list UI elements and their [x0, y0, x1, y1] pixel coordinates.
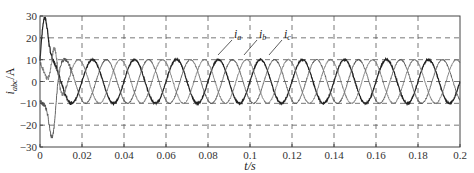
svg-text:0.18: 0.18 — [408, 149, 428, 161]
svg-text:0.02: 0.02 — [72, 149, 91, 161]
svg-text:10: 10 — [26, 54, 38, 66]
svg-text:−10: −10 — [20, 97, 38, 109]
svg-text:30: 30 — [26, 10, 38, 22]
svg-text:20: 20 — [26, 32, 38, 44]
x-axis-label: t/s — [244, 159, 256, 173]
svg-text:0.14: 0.14 — [324, 149, 344, 161]
legend-ic: ic — [284, 27, 291, 42]
svg-text:−20: −20 — [20, 119, 38, 131]
legend-ib: ib — [259, 27, 266, 42]
svg-text:0: 0 — [37, 149, 43, 161]
svg-text:0.2: 0.2 — [453, 149, 467, 161]
legend-ia: ia — [234, 27, 241, 42]
legend-annotations: ia ib ic — [218, 27, 291, 55]
svg-text:−30: −30 — [20, 141, 38, 153]
svg-text:0.16: 0.16 — [366, 149, 386, 161]
chart: 00.020.040.060.080.10.120.140.160.180.2 … — [0, 0, 474, 173]
svg-text:0.06: 0.06 — [156, 149, 176, 161]
svg-text:0.08: 0.08 — [198, 149, 218, 161]
svg-text:0.04: 0.04 — [114, 149, 134, 161]
svg-text:iabc/A: iabc/A — [3, 67, 19, 94]
svg-text:0.12: 0.12 — [282, 149, 301, 161]
svg-text:0: 0 — [32, 76, 38, 88]
y-axis-label: iabc/A — [3, 67, 19, 94]
